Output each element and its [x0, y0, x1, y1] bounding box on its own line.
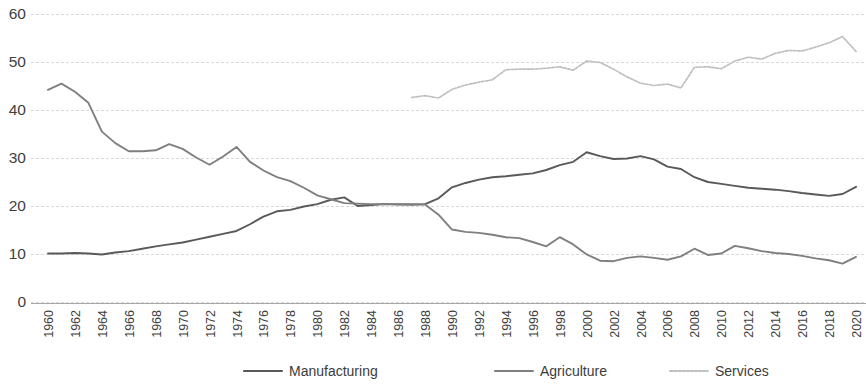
x-tick-label-2008: 2008 — [688, 310, 702, 338]
legend-label-services: Services — [715, 363, 769, 379]
legend-label-manufacturing: Manufacturing — [289, 363, 378, 379]
x-tick-label-1968: 1968 — [150, 310, 164, 338]
x-tick-label-1970: 1970 — [177, 310, 191, 338]
legend-label-agriculture: Agriculture — [540, 363, 607, 379]
x-tick-label-1980: 1980 — [311, 310, 325, 338]
x-tick-label-1966: 1966 — [123, 310, 137, 338]
chart-container: 0102030405060 19601962196419661968197019… — [0, 0, 866, 384]
x-tick-label-1988: 1988 — [419, 310, 433, 338]
x-tick-label-2010: 2010 — [715, 310, 729, 338]
x-tick-label-2006: 2006 — [661, 310, 675, 338]
x-tick-label-1984: 1984 — [365, 310, 379, 338]
x-tick-label-1986: 1986 — [392, 310, 406, 338]
y-tick-label-10: 10 — [9, 245, 27, 262]
y-tick-label-40: 40 — [9, 101, 27, 118]
x-tick-label-2018: 2018 — [823, 310, 837, 338]
x-tick-label-1992: 1992 — [473, 310, 487, 338]
y-tick-label-20: 20 — [9, 197, 27, 214]
x-tick-label-1972: 1972 — [204, 310, 218, 338]
x-tick-label-2014: 2014 — [769, 310, 783, 338]
x-tick-label-1982: 1982 — [338, 310, 352, 338]
x-tick-label-2012: 2012 — [742, 310, 756, 338]
x-tick-label-1994: 1994 — [500, 310, 514, 338]
x-tick-label-2002: 2002 — [608, 310, 622, 338]
y-tick-label-30: 30 — [9, 149, 27, 166]
x-tick-label-1998: 1998 — [554, 310, 568, 338]
y-tick-label-60: 60 — [9, 5, 27, 22]
x-tick-label-1978: 1978 — [284, 310, 298, 338]
x-tick-label-1996: 1996 — [527, 310, 541, 338]
x-tick-label-2000: 2000 — [581, 310, 595, 338]
x-tick-label-2016: 2016 — [796, 310, 810, 338]
y-tick-label-0: 0 — [17, 293, 26, 310]
x-tick-label-1976: 1976 — [257, 310, 271, 338]
x-tick-label-2004: 2004 — [635, 310, 649, 338]
x-tick-label-2020: 2020 — [850, 310, 864, 338]
x-tick-label-1990: 1990 — [446, 310, 460, 338]
x-tick-label-1974: 1974 — [231, 310, 245, 338]
x-tick-label-1962: 1962 — [69, 310, 83, 338]
line-chart: 0102030405060 19601962196419661968197019… — [0, 0, 866, 384]
y-tick-label-50: 50 — [9, 53, 27, 70]
x-tick-label-1964: 1964 — [96, 310, 110, 338]
x-tick-label-1960: 1960 — [42, 310, 56, 338]
